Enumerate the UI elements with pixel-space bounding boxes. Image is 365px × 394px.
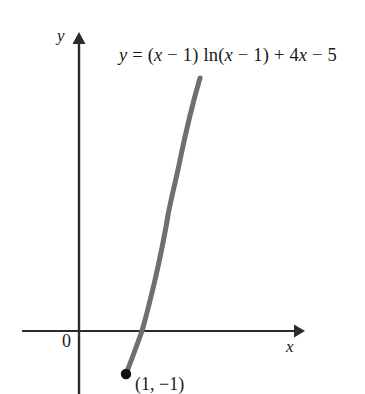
equation-minus-2: − 1) + 4 — [233, 45, 299, 65]
graph-figure: y = (x − 1) ln(x − 1) + 4x − 5 y x 0 (1,… — [0, 0, 365, 394]
endpoint-coordinate-label: (1, −1) — [135, 375, 184, 393]
y-axis-arrowhead-icon — [73, 32, 86, 44]
curve-equation-label: y = (x − 1) ln(x − 1) + 4x − 5 — [119, 46, 337, 65]
origin-label: 0 — [62, 332, 71, 350]
function-curve — [126, 78, 200, 374]
equation-minus-3: − 5 — [307, 45, 337, 65]
equation-x-3: x — [299, 45, 307, 65]
x-axis-arrowhead-icon — [294, 325, 305, 338]
equation-equals: = — [127, 45, 147, 65]
y-axis-label: y — [57, 27, 65, 44]
equation-x-1: x — [154, 45, 162, 65]
y-axis — [73, 32, 86, 394]
equation-ln: ln( — [203, 45, 224, 65]
equation-minus-1: − 1) — [163, 45, 204, 65]
endpoint-dot — [121, 369, 131, 379]
x-axis-label: x — [286, 338, 294, 355]
equation-x-2: x — [225, 45, 233, 65]
